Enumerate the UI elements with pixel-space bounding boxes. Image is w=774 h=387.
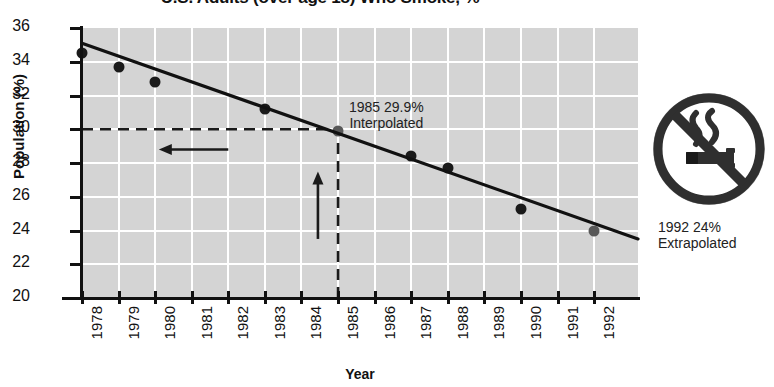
y-axis-tick-label: 26 bbox=[0, 186, 30, 204]
data-point bbox=[113, 61, 124, 72]
y-axis-tick-label: 28 bbox=[0, 152, 30, 170]
x-axis-tick bbox=[410, 291, 413, 304]
up-arrow-head bbox=[312, 171, 323, 184]
data-point bbox=[150, 77, 161, 88]
no-smoking-icon bbox=[652, 92, 766, 206]
y-axis-tick-label: 32 bbox=[0, 85, 30, 103]
x-axis-tick bbox=[520, 291, 523, 304]
data-point bbox=[515, 203, 526, 214]
chart-root: U.S. Adults (over age 18) Who Smoke, % P… bbox=[0, 0, 774, 387]
data-point bbox=[259, 104, 270, 115]
y-axis-tick-label: 20 bbox=[0, 287, 30, 305]
x-axis-tick-label: 1988 bbox=[454, 306, 471, 339]
extrapolated-callout-line1: 1992 24% bbox=[658, 219, 737, 235]
y-axis-tick bbox=[70, 162, 82, 165]
x-axis-tick-label: 1984 bbox=[307, 306, 324, 339]
x-axis-tick-label: 1987 bbox=[417, 306, 434, 339]
left-arrow-head bbox=[159, 144, 172, 155]
y-axis-tick bbox=[70, 27, 82, 30]
x-axis-tick bbox=[300, 291, 303, 304]
plot-area bbox=[82, 28, 638, 298]
y-axis-tick-label: 30 bbox=[0, 118, 30, 136]
x-axis-tick bbox=[447, 291, 450, 304]
x-axis-tick-label: 1979 bbox=[125, 306, 142, 339]
x-axis-tick bbox=[191, 291, 194, 304]
interpolated-callout-line2: Interpolated bbox=[349, 115, 424, 131]
y-axis-tick-label: 34 bbox=[0, 51, 30, 69]
data-point bbox=[333, 125, 344, 136]
y-axis-tick bbox=[70, 128, 82, 131]
interpolated-callout: 1985 29.9% Interpolated bbox=[349, 99, 424, 131]
x-axis-tick-label: 1986 bbox=[381, 306, 398, 339]
y-axis-tick bbox=[70, 230, 82, 233]
x-axis-line bbox=[62, 297, 640, 300]
x-axis-tick-label: 1989 bbox=[490, 306, 507, 339]
x-axis-tick-label: 1983 bbox=[271, 306, 288, 339]
x-axis-tick bbox=[81, 291, 84, 304]
y-axis-tick-label: 36 bbox=[0, 17, 30, 35]
y-axis-tick-label: 24 bbox=[0, 220, 30, 238]
x-axis-tick-label: 1980 bbox=[161, 306, 178, 339]
x-axis-tick bbox=[337, 291, 340, 304]
y-axis-tick-label: 22 bbox=[0, 253, 30, 271]
x-axis-title: Year bbox=[82, 366, 638, 382]
data-point bbox=[589, 225, 600, 236]
x-axis-tick-label: 1990 bbox=[527, 306, 544, 339]
interpolated-callout-line1: 1985 29.9% bbox=[349, 99, 424, 115]
data-point bbox=[442, 163, 453, 174]
x-axis-tick bbox=[154, 291, 157, 304]
x-axis-tick bbox=[557, 291, 560, 304]
extrapolated-callout-line2: Extrapolated bbox=[658, 235, 737, 251]
x-axis-tick-label: 1991 bbox=[564, 306, 581, 339]
x-axis-tick bbox=[264, 291, 267, 304]
guides-layer bbox=[82, 28, 638, 298]
chart-title: U.S. Adults (over age 18) Who Smoke, % bbox=[0, 0, 640, 8]
y-axis-tick bbox=[70, 263, 82, 266]
x-axis-tick-label: 1978 bbox=[88, 306, 105, 339]
x-axis-tick-label: 1992 bbox=[600, 306, 617, 339]
y-axis-tick bbox=[70, 196, 82, 199]
x-axis-tick bbox=[374, 291, 377, 304]
x-axis-tick bbox=[483, 291, 486, 304]
x-axis-tick bbox=[118, 291, 121, 304]
x-axis-tick-label: 1985 bbox=[344, 306, 361, 339]
y-axis-tick bbox=[70, 95, 82, 98]
extrapolated-callout: 1992 24% Extrapolated bbox=[658, 219, 737, 251]
x-axis-tick bbox=[593, 291, 596, 304]
x-axis-tick-label: 1982 bbox=[234, 306, 251, 339]
y-axis-tick bbox=[70, 61, 82, 64]
x-axis-tick-label: 1981 bbox=[198, 306, 215, 339]
data-point bbox=[406, 151, 417, 162]
x-axis-tick bbox=[227, 291, 230, 304]
